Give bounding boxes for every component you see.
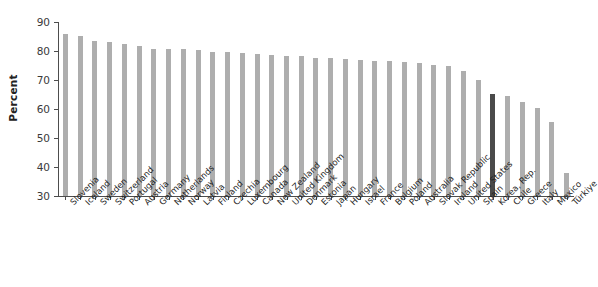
bar-slot[interactable] <box>427 22 442 196</box>
y-axis-title: Percent <box>2 0 24 196</box>
bar-slot[interactable] <box>545 22 560 196</box>
y-axis-tick: 80 <box>37 45 58 57</box>
bar-slot[interactable] <box>353 22 368 196</box>
bar[interactable] <box>284 56 289 196</box>
x-axis-labels: SloveniaIcelandSwedenSwitzerlandPortugal… <box>58 200 574 286</box>
bar-slot[interactable] <box>73 22 88 196</box>
bar-slot[interactable] <box>368 22 383 196</box>
bar-slot[interactable] <box>58 22 73 196</box>
y-axis-tick-mark <box>54 196 58 197</box>
y-axis-tick-label: 40 <box>37 161 54 173</box>
bar-slot[interactable] <box>559 22 574 196</box>
bar-slot[interactable] <box>412 22 427 196</box>
bar-slot[interactable] <box>161 22 176 196</box>
y-axis-tick: 90 <box>37 16 58 28</box>
bar[interactable] <box>122 44 127 196</box>
bar[interactable] <box>78 36 83 196</box>
y-axis-tick-label: 70 <box>37 74 54 86</box>
bar[interactable] <box>255 54 260 196</box>
bar[interactable] <box>166 49 171 196</box>
bar[interactable] <box>107 42 112 196</box>
bar-slot[interactable] <box>338 22 353 196</box>
bar[interactable] <box>343 59 348 196</box>
y-axis-tick-mark <box>54 167 58 168</box>
bar[interactable] <box>505 96 510 196</box>
y-axis-tick-mark <box>54 51 58 52</box>
y-axis-tick-label: 30 <box>37 190 54 202</box>
bar[interactable] <box>402 62 407 196</box>
y-axis-tick-mark <box>54 109 58 110</box>
y-axis-tick: 70 <box>37 74 58 86</box>
bar[interactable] <box>92 41 97 196</box>
bar[interactable] <box>387 61 392 196</box>
bar[interactable] <box>240 53 245 196</box>
bar[interactable] <box>476 80 481 196</box>
y-axis-tick-label: 90 <box>37 16 54 28</box>
y-axis-tick-mark <box>54 22 58 23</box>
y-axis-tick-label: 80 <box>37 45 54 57</box>
bar-slot[interactable] <box>117 22 132 196</box>
bar-slot[interactable] <box>397 22 412 196</box>
bar-slot[interactable] <box>250 22 265 196</box>
bar[interactable] <box>535 108 540 196</box>
bar-slot[interactable] <box>441 22 456 196</box>
bar-slot[interactable] <box>220 22 235 196</box>
bar[interactable] <box>225 52 230 196</box>
y-axis-tick-mark <box>54 80 58 81</box>
bar-slot[interactable] <box>87 22 102 196</box>
bar[interactable] <box>358 60 363 196</box>
bar[interactable] <box>63 34 68 196</box>
bar-slot[interactable] <box>235 22 250 196</box>
y-axis-tick: 50 <box>37 132 58 144</box>
bar-slot[interactable] <box>382 22 397 196</box>
bar-slot[interactable] <box>176 22 191 196</box>
y-axis-tick: 30 <box>37 190 58 202</box>
y-axis-tick-label: 60 <box>37 103 54 115</box>
bar[interactable] <box>431 65 436 196</box>
y-axis-tick: 60 <box>37 103 58 115</box>
y-axis-tick-label: 50 <box>37 132 54 144</box>
y-axis-title-text: Percent <box>7 74 19 121</box>
bar-slot[interactable] <box>102 22 117 196</box>
y-axis-tick-mark <box>54 138 58 139</box>
y-axis-tick: 40 <box>37 161 58 173</box>
